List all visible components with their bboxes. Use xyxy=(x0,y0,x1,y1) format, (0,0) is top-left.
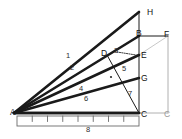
dotted-segment-to-E xyxy=(117,52,136,55)
ruler-graphic xyxy=(17,116,139,126)
point-label-g: G xyxy=(141,74,148,82)
point-label-f: F xyxy=(164,30,169,38)
angle-number-2: 2 xyxy=(70,64,74,72)
dotted-construction-lines xyxy=(117,52,136,55)
point-label-c2: C xyxy=(164,110,170,118)
point-label-d: D xyxy=(101,49,107,57)
point-label-e: E xyxy=(141,51,147,59)
point-label-a: A xyxy=(10,108,16,116)
angle-number-5: 5 xyxy=(122,65,126,73)
angle-number-3: 3 xyxy=(114,47,118,55)
angle-number-1: 1 xyxy=(66,52,70,60)
ray-lines xyxy=(14,12,139,113)
point-label-b: B xyxy=(136,29,142,37)
ray-A-B xyxy=(14,36,139,113)
angle-number-7: 7 xyxy=(128,90,132,98)
angle-number-4: 4 xyxy=(79,85,83,93)
interior-dot-marker xyxy=(110,76,112,78)
ruler-number-8: 8 xyxy=(86,126,90,134)
diagram-canvas: ABCDEFGHC12345678 xyxy=(0,0,182,139)
point-label-c: C xyxy=(141,110,147,118)
point-label-h: H xyxy=(147,8,153,16)
interior-dot xyxy=(110,76,112,78)
angle-number-6: 6 xyxy=(84,95,88,103)
geometry-figure xyxy=(0,0,182,139)
